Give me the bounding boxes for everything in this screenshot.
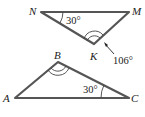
vertex-label-n: N [28,5,37,17]
vertex-label-a: A [2,92,10,104]
vertex-label-k: K [89,50,98,62]
angle-c-label: 30° [83,84,98,95]
triangle-abc-edges [15,62,129,98]
similar-triangles-diagram: N M K 30° 106° A B C 30° [0,0,145,117]
triangle-nmk-edges [41,12,129,44]
angle-n-arc [60,12,63,23]
vertex-label-c: C [131,92,139,104]
triangle-nmk: N M K 30° 106° [28,5,142,66]
angle-k-exterior-label: 106° [113,55,133,66]
vertex-label-m: M [131,5,142,17]
vertex-label-b: B [54,49,61,61]
angle-n-label: 30° [66,15,81,26]
angle-c-arc [101,85,104,98]
